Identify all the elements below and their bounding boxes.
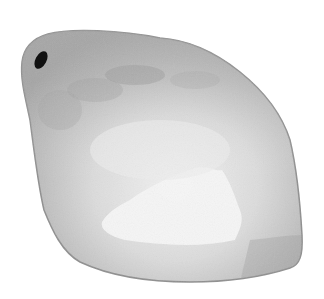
image-canvas [0, 0, 324, 299]
object-illustration [0, 0, 324, 299]
object-body [0, 0, 324, 282]
